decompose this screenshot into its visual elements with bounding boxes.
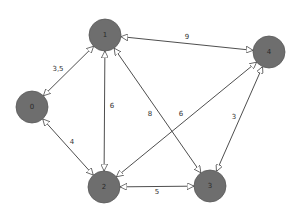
node-0: 0 — [16, 91, 48, 123]
edge-label: 6 — [179, 110, 184, 118]
edge-label: 4 — [70, 138, 75, 146]
edge-label: 6 — [110, 102, 115, 110]
node-label: 4 — [267, 48, 272, 56]
node-4: 4 — [253, 36, 285, 68]
edge-1-2 — [104, 51, 105, 171]
edge-label: 3 — [232, 113, 236, 121]
graph-diagram: 3,59686345 14023 — [0, 0, 306, 215]
edge-label: 3,5 — [52, 65, 63, 73]
edge-1-3 — [114, 48, 201, 173]
node-label: 3 — [208, 182, 212, 190]
edge-label: 8 — [148, 110, 152, 118]
edge-4-3 — [216, 67, 262, 172]
edges-layer — [43, 37, 263, 187]
edge-2-3 — [120, 186, 194, 187]
node-2: 2 — [88, 171, 120, 203]
edge-0-1 — [43, 46, 93, 96]
node-label: 0 — [30, 103, 34, 111]
edge-label: 9 — [185, 33, 189, 41]
node-label: 1 — [103, 31, 107, 39]
edge-0-2 — [43, 119, 94, 175]
node-1: 1 — [89, 19, 121, 51]
node-label: 2 — [102, 183, 106, 191]
edge-label: 5 — [155, 188, 159, 196]
node-3: 3 — [194, 170, 226, 202]
